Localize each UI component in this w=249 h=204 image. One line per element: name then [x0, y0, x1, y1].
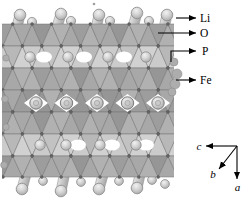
crystal-structure-canvas: Li O P Fe c b a — [0, 0, 249, 204]
b-axis-label: b — [210, 168, 216, 180]
b-axis-arrow — [219, 146, 237, 169]
o-label: O — [200, 27, 208, 39]
axes-indicator: c b a — [197, 140, 241, 193]
crystal-structure-figure: Li O P Fe c b a — [0, 0, 249, 204]
crystal-structure-rendering — [0, 3, 197, 198]
a-axis-label: a — [235, 181, 241, 193]
c-axis-label: c — [197, 140, 202, 152]
li-label: Li — [200, 12, 210, 24]
p-label: P — [202, 45, 208, 57]
fe-label: Fe — [200, 74, 212, 86]
